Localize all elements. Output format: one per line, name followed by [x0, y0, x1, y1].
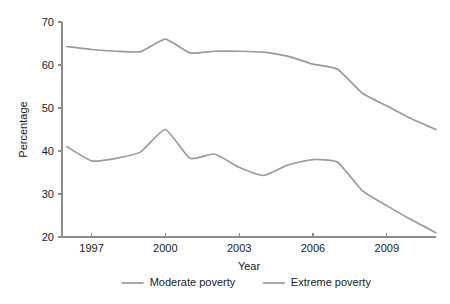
x-tick-label: 2000	[153, 242, 177, 254]
y-tick-label: 60	[42, 59, 54, 71]
x-axis-ticks: 19972000200320062009	[79, 233, 399, 254]
chart-canvas: 203040506070 19972000200320062009 Percen…	[0, 0, 450, 304]
legend-label-0[interactable]: Moderate poverty	[150, 276, 236, 288]
y-axis-ticks: 203040506070	[42, 16, 62, 243]
y-tick-label: 30	[42, 188, 54, 200]
y-tick-label: 40	[42, 145, 54, 157]
legend-label-1[interactable]: Extreme poverty	[291, 276, 372, 288]
x-tick-label: 2003	[227, 242, 251, 254]
series-lines	[67, 39, 436, 233]
poverty-line-chart: 203040506070 19972000200320062009 Percen…	[0, 0, 450, 304]
x-tick-label: 2009	[375, 242, 399, 254]
y-axis-title: Percentage	[17, 101, 29, 157]
y-tick-label: 70	[42, 16, 54, 28]
x-tick-label: 1997	[79, 242, 103, 254]
x-tick-label: 2006	[301, 242, 325, 254]
y-tick-label: 50	[42, 102, 54, 114]
chart-legend: Moderate povertyExtreme poverty	[122, 276, 372, 288]
series-line-extreme-poverty	[67, 129, 436, 232]
series-line-moderate-poverty	[67, 39, 436, 129]
x-axis-title: Year	[238, 260, 261, 272]
y-tick-label: 20	[42, 231, 54, 243]
